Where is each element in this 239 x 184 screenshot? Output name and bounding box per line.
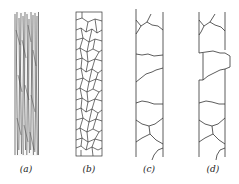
panel-b-grain-strip: [76, 12, 102, 156]
panel-d-label: (d): [198, 164, 228, 174]
panel-c-cracked-strip: [136, 9, 163, 160]
panel-a-fibrous-strip: [14, 12, 39, 156]
panel-a-label: (a): [11, 164, 41, 174]
panel-d-offset-strip: [199, 12, 230, 160]
panel-b-label: (b): [74, 164, 104, 174]
panel-c-label: (c): [134, 164, 164, 174]
figure-diagram: [0, 0, 239, 184]
